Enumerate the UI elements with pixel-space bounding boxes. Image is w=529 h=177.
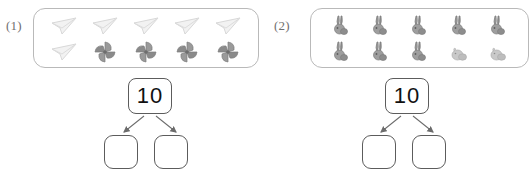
problem-1-object-row-2 (34, 39, 258, 65)
rabbit-icon (483, 14, 513, 38)
pinwheel-icon (213, 40, 243, 64)
bond-total-box: 10 (385, 78, 429, 114)
bond-right-answer-box[interactable] (154, 135, 188, 169)
paper-plane-icon (90, 14, 120, 38)
rabbit-icon (365, 40, 395, 64)
problem-2-object-row-2 (311, 39, 528, 65)
pinwheel-icon (131, 40, 161, 64)
pinwheel-icon (90, 40, 120, 64)
pinwheel-icon (172, 40, 202, 64)
problem-1-label: (1) (6, 18, 22, 34)
problem-2-object-row-1 (311, 13, 528, 39)
rabbit-icon (326, 40, 356, 64)
problem-1-number-bond: 10 (0, 78, 264, 177)
problem-2: (2) (264, 0, 528, 177)
rabbit-icon (365, 14, 395, 38)
rabbit-icon (326, 14, 356, 38)
problem-1-object-row-1 (34, 13, 258, 39)
problem-2-number-bond: 10 (264, 78, 528, 177)
rabbit-icon (404, 40, 434, 64)
bond-right-answer-box[interactable] (412, 135, 446, 169)
paper-plane-icon (49, 14, 79, 38)
rabbit-icon (404, 14, 434, 38)
paper-plane-icon (131, 14, 161, 38)
bond-left-answer-box[interactable] (104, 135, 138, 169)
paper-plane-icon (172, 14, 202, 38)
problem-1: (1) (0, 0, 264, 177)
bond-total-box: 10 (128, 78, 172, 114)
chick-icon (483, 40, 513, 64)
paper-plane-icon (49, 40, 79, 64)
paper-plane-icon (213, 14, 243, 38)
chick-icon (444, 40, 474, 64)
bond-left-answer-box[interactable] (362, 135, 396, 169)
problem-2-object-group-box (310, 8, 529, 68)
problem-2-label: (2) (274, 18, 290, 34)
problem-1-object-group-box (33, 8, 259, 68)
rabbit-icon (444, 14, 474, 38)
